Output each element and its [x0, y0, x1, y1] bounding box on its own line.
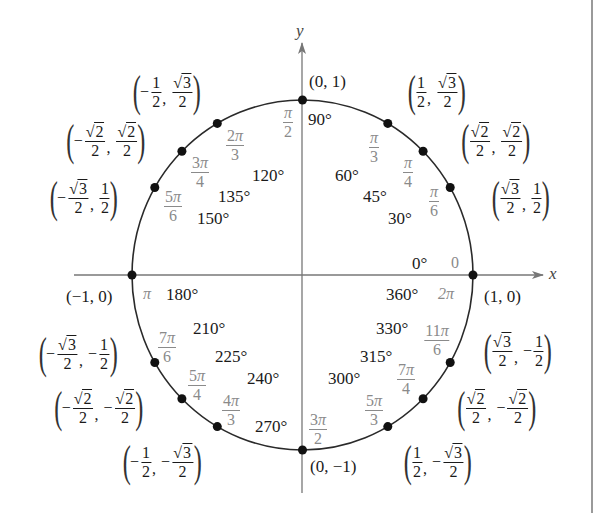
point-150deg: [150, 183, 159, 192]
coord-180: (−1, 0): [66, 288, 112, 305]
degree-315: 315°: [360, 348, 392, 365]
radian-7pi-over-6: 7π6: [158, 330, 176, 365]
point-330deg: [446, 358, 455, 367]
degree-210: 210°: [193, 320, 225, 337]
radian-pi-over-3: π3: [369, 130, 379, 165]
degree-150: 150°: [197, 210, 229, 227]
point-0deg: [469, 271, 478, 280]
degree-330: 330°: [376, 320, 408, 337]
radian-3pi-over-2: 3π2: [309, 412, 327, 447]
radian-5pi-over-3: 5π3: [365, 393, 383, 428]
unit-circle-diagram: y x (0, 1) (0, −1) (−1, 0) (1, 0) 90° 60…: [0, 0, 598, 513]
point-315deg: [419, 394, 428, 403]
radian-pi-over-2: π2: [283, 105, 293, 140]
point-45deg: [419, 147, 428, 156]
radian-4pi-over-3: 4π3: [222, 393, 240, 428]
radian-2pi: 2π: [438, 286, 454, 302]
degree-135: 135°: [218, 188, 250, 205]
radian-pi: π: [143, 286, 151, 302]
point-270deg: [298, 446, 307, 455]
x-axis-label: x: [549, 265, 557, 282]
coord-300: (12,−√32): [404, 440, 471, 484]
coord-0: (1, 0): [484, 288, 521, 305]
degree-270: 270°: [255, 418, 287, 435]
degree-240: 240°: [247, 370, 279, 387]
degree-360: 360°: [386, 286, 418, 303]
degree-30: 30°: [388, 210, 412, 227]
degree-225: 225°: [215, 348, 247, 365]
point-90deg: [298, 96, 307, 105]
y-axis-label: y: [296, 22, 304, 39]
radian-3pi-over-4: 3π4: [191, 155, 209, 190]
radian-11pi-over-6: 11π6: [424, 323, 449, 358]
degree-45: 45°: [363, 188, 387, 205]
radian-5pi-over-4: 5π4: [188, 368, 206, 403]
degree-180: 180°: [166, 286, 198, 303]
radian-5pi-over-6: 5π6: [164, 189, 182, 224]
point-180deg: [128, 271, 137, 280]
degree-300: 300°: [328, 370, 360, 387]
coord-30: (√32,12): [492, 176, 549, 220]
degree-120: 120°: [252, 167, 284, 184]
radian-pi-over-6: π6: [429, 184, 439, 219]
unit-circle-graphic: [0, 0, 598, 513]
degree-90: 90°: [308, 111, 332, 128]
coord-330: (√32,−12): [484, 329, 551, 373]
point-135deg: [177, 147, 186, 156]
coord-270: (0, −1): [310, 458, 356, 475]
degree-60: 60°: [335, 167, 359, 184]
coord-150: (−√32,12): [50, 176, 117, 220]
point-30deg: [446, 183, 455, 192]
radian-2pi-over-3: 2π3: [226, 128, 244, 163]
point-120deg: [213, 119, 222, 128]
coord-240: (−12,−√32): [123, 440, 200, 484]
point-60deg: [383, 119, 392, 128]
point-225deg: [177, 394, 186, 403]
coord-120: (−12,√32): [133, 70, 200, 114]
degree-0: 0°: [412, 255, 427, 272]
coord-210: (−√32,−12): [39, 332, 116, 376]
radian-pi-over-4: π4: [403, 155, 413, 190]
coord-60: (12,√32): [408, 70, 465, 114]
coord-315: (√22,−√22): [458, 386, 536, 430]
radian-7pi-over-4: 7π4: [397, 362, 415, 397]
coord-45: (√22,√22): [462, 119, 530, 163]
coord-135: (−√22,√22): [67, 119, 145, 163]
radian-0: 0: [451, 255, 459, 271]
point-240deg: [213, 422, 222, 431]
point-300deg: [383, 422, 392, 431]
coord-90: (0, 1): [309, 73, 346, 90]
coord-225: (−√22,−√22): [55, 386, 143, 430]
